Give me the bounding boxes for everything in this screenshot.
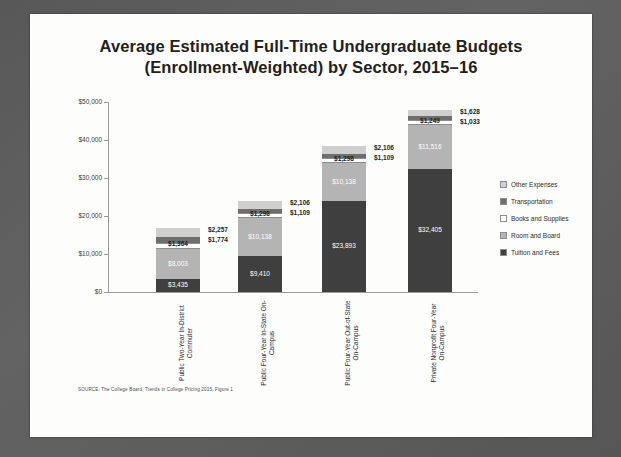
bar-segment-value-books: $1,298 [324, 155, 364, 162]
y-axis-tick [104, 292, 108, 293]
legend-swatch-icon [500, 232, 507, 239]
y-axis-tick [104, 102, 108, 103]
legend-item-label: Room and Board [511, 232, 560, 239]
photo-frame: Average Estimated Full-Time Undergraduat… [0, 0, 621, 457]
bar-segment-tuition[interactable]: $23,893 [322, 201, 366, 292]
x-axis-line [108, 292, 478, 293]
y-axis-tick-label: $40,000 [58, 136, 102, 143]
x-axis-category-label: Public Two-Year In-District Commuter [178, 298, 194, 388]
bar-segment-value: $3,435 [168, 282, 188, 289]
x-axis-category-label: Private Nonprofit Four-Year On-Campus [430, 298, 446, 388]
bar-segment-value-books: $1,364 [158, 240, 198, 247]
bar-segment-value-books: $1,249 [410, 117, 450, 124]
bar-segment-value: $23,893 [332, 243, 356, 250]
y-axis-tick [104, 216, 108, 217]
y-axis-tick-label: $10,000 [58, 250, 102, 257]
legend-swatch-icon [500, 181, 507, 188]
bar-segment-other[interactable] [238, 201, 282, 209]
y-axis-tick-label: $50,000 [58, 98, 102, 105]
x-axis-category-label: Public Four-Year Out-of-State On-Campus [344, 298, 360, 388]
source-note: SOURCE: The College Board, Trends in Col… [78, 387, 233, 392]
bar-stack[interactable]: $10,138$23,893 [322, 146, 366, 292]
legend-item[interactable]: Tuition and Fees [500, 248, 592, 256]
bar-segment-value-books: $1,298 [240, 210, 280, 217]
bar-segment-tuition[interactable]: $32,405 [408, 169, 452, 292]
callout-other-expenses: $1,628 [460, 108, 480, 115]
chart-plot-area: $8,003$3,435$2,257$1,774$1,364$10,138$9,… [108, 102, 478, 292]
callout-transportation: $1,774 [208, 236, 228, 243]
bar-segment-other[interactable] [322, 146, 366, 154]
bar-segment-value: $8,003 [168, 261, 188, 268]
callout-transportation: $1,033 [460, 118, 480, 125]
bar-segment-room[interactable]: $11,516 [408, 125, 452, 169]
page-title: Average Estimated Full-Time Undergraduat… [30, 36, 592, 78]
callout-other-expenses: $2,257 [208, 226, 228, 233]
callout-transportation: $1,109 [374, 154, 394, 161]
y-axis-tick [104, 178, 108, 179]
legend-item[interactable]: Transportation [500, 197, 592, 205]
bar-segment-value: $10,138 [248, 234, 272, 241]
legend-item-label: Transportation [511, 198, 553, 205]
callout-transportation: $1,109 [290, 209, 310, 216]
title-line-2: (Enrollment-Weighted) by Sector, 2015–16 [30, 57, 592, 78]
slide-canvas: Average Estimated Full-Time Undergraduat… [30, 14, 592, 437]
bar-segment-other[interactable] [156, 228, 200, 237]
legend-swatch-icon [500, 215, 507, 222]
legend-item[interactable]: Other Expenses [500, 180, 592, 188]
bar-segment-tuition[interactable]: $3,435 [156, 279, 200, 292]
y-axis-tick-label: $0 [58, 288, 102, 295]
legend-swatch-icon [500, 198, 507, 205]
bar-segment-room[interactable]: $10,138 [322, 163, 366, 202]
callout-other-expenses: $2,106 [290, 199, 310, 206]
legend-item-label: Tuition and Fees [511, 249, 559, 256]
bar-segment-value: $11,516 [418, 144, 441, 151]
title-line-1: Average Estimated Full-Time Undergraduat… [100, 37, 523, 55]
bar-segment-value: $32,405 [418, 227, 442, 234]
y-axis-tick [104, 140, 108, 141]
y-axis-tick [104, 254, 108, 255]
bar-stack[interactable]: $11,516$32,405 [408, 110, 452, 292]
legend-swatch-icon [500, 249, 507, 256]
bar-stack[interactable]: $8,003$3,435 [156, 228, 200, 292]
x-axis-category-label: Public Four-Year In-State On-Campus [260, 298, 276, 388]
y-axis-tick-label: $20,000 [58, 212, 102, 219]
bar-segment-value: $10,138 [332, 179, 356, 186]
bar-segment-value: $9,410 [250, 271, 270, 278]
legend-item[interactable]: Books and Supplies [500, 214, 592, 222]
legend-item-label: Other Expenses [511, 181, 558, 188]
bar-segment-room[interactable]: $8,003 [156, 249, 200, 279]
y-axis-line [108, 102, 109, 292]
bar-segment-tuition[interactable]: $9,410 [238, 256, 282, 292]
legend-item[interactable]: Room and Board [500, 231, 592, 239]
legend-item-label: Books and Supplies [511, 215, 568, 222]
callout-other-expenses: $2,106 [374, 144, 394, 151]
bar-segment-room[interactable]: $10,138 [238, 218, 282, 257]
chart-legend: Other ExpensesTransportationBooks and Su… [500, 180, 592, 265]
y-axis-tick-label: $30,000 [58, 174, 102, 181]
